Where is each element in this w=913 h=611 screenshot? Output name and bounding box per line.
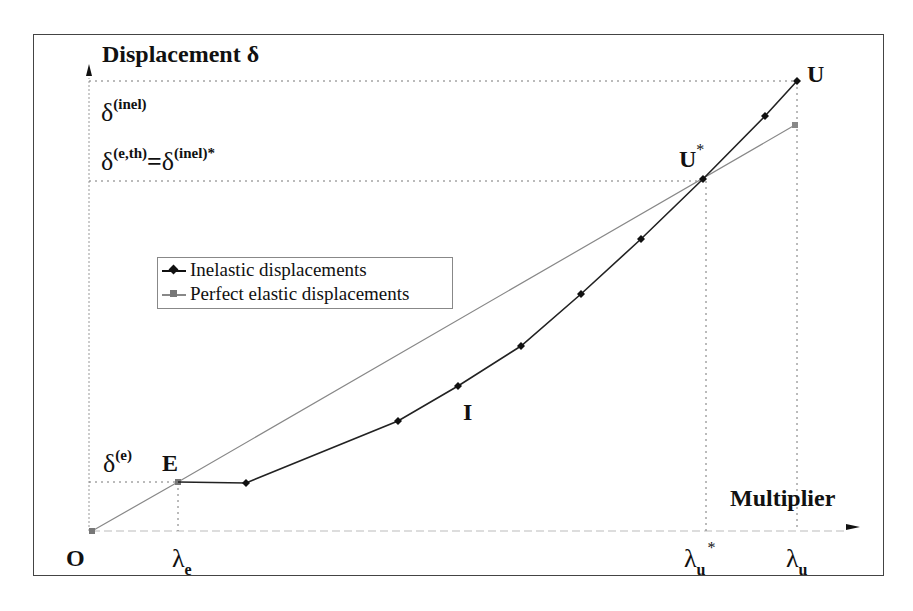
label-base: U [679,146,696,172]
tick-base: δ [101,98,113,127]
tick-sup: (e,th) [113,145,147,161]
tick-lambda-u: λu [786,546,808,572]
tick-eq: = [147,147,162,176]
tick-sup: * [708,539,716,556]
tick-sup: (e) [115,447,132,463]
tick-sub: u [799,561,808,578]
label-point-e: E [162,451,178,475]
label-origin: O [66,546,85,570]
legend-item-inelastic: Inelastic displacements [158,258,452,282]
tick-delta-eth: δ(e,th)=δ(inel)* [101,148,215,175]
tick-sup: (inel) [113,96,146,112]
legend-swatch-elastic [162,288,186,300]
label-sup: * [696,141,704,158]
x-axis-arrow-icon [846,524,860,530]
tick-sup2: (inel)* [174,145,215,161]
legend: Inelastic displacements Perfect elastic … [157,257,453,309]
tick-lambda-u-star: λu* [684,546,716,572]
elastic-marker [792,122,798,128]
tick-base: δ [103,449,115,478]
tick-sub: e [185,561,192,578]
elastic-series-line [92,125,795,531]
tick-base: λ [172,544,185,573]
y-axis-arrow-icon [86,64,92,76]
tick-base: λ [786,544,799,573]
legend-item-elastic: Perfect elastic displacements [158,282,452,306]
tick-base: δ [101,147,113,176]
tick-base2: δ [162,147,174,176]
tick-base: λ [684,544,697,573]
label-point-i: I [463,400,472,424]
legend-swatch-inelastic [162,264,186,276]
tick-delta-e: δ(e) [103,450,132,477]
y-axis-label: Displacement δ [102,42,259,66]
legend-label-inelastic: Inelastic displacements [190,259,367,281]
x-axis-label: Multiplier [730,486,835,510]
label-point-u-star: U* [679,147,704,171]
tick-delta-inel: δ(inel) [101,99,147,126]
elastic-marker [89,528,95,534]
label-point-u: U [807,62,824,86]
tick-sub: u [697,561,706,578]
tick-lambda-e: λe [172,546,192,572]
plot-area [0,0,913,611]
legend-label-elastic: Perfect elastic displacements [190,283,409,305]
